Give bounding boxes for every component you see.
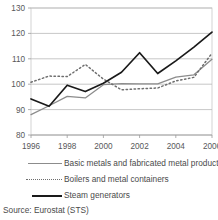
y-axis-tick-label: 80 (16, 131, 26, 140)
legend-label: Steam generators (64, 190, 130, 200)
chart-figure: 8090100110120130199619982000200220042006… (0, 0, 218, 220)
y-axis-tick-label: 120 (11, 29, 25, 38)
source-note: Source: Eurostat (STS) (3, 205, 89, 215)
legend-item-steam-generators: Steam generators (0, 187, 218, 203)
y-axis-tick-label: 130 (11, 4, 25, 13)
y-axis-tick-label: 100 (11, 80, 25, 89)
x-axis-tick-label: 1998 (58, 142, 77, 151)
plot-area-wrapper: 8090100110120130199619982000200220042006 (0, 2, 218, 157)
line-chart: 8090100110120130199619982000200220042006 (0, 2, 218, 157)
legend-key-dotted-icon (26, 174, 62, 184)
x-axis-tick-label: 1996 (22, 142, 41, 151)
chart-legend: Basic metals and fabricated metal produc… (0, 155, 218, 203)
x-axis-tick-label: 2004 (167, 142, 186, 151)
legend-key-line-icon (26, 190, 62, 200)
y-axis-tick-label: 90 (16, 106, 26, 115)
legend-item-boilers: Boilers and metal containers (0, 171, 218, 187)
x-axis-tick-label: 2000 (94, 142, 113, 151)
legend-key-line-icon (26, 158, 62, 168)
legend-label: Basic metals and fabricated metal produc… (64, 158, 218, 168)
legend-item-basic-metals: Basic metals and fabricated metal produc… (0, 155, 218, 171)
x-axis-tick-label: 2006 (203, 142, 218, 151)
legend-label: Boilers and metal containers (64, 174, 169, 184)
x-axis-tick-label: 2002 (130, 142, 149, 151)
y-axis-tick-label: 110 (12, 55, 25, 64)
